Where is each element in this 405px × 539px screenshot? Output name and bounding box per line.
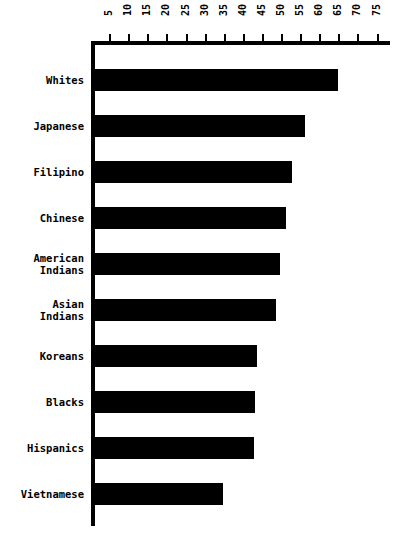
x-axis-tick-label: 35 bbox=[219, 4, 229, 16]
x-axis-tick-label: 25 bbox=[181, 4, 191, 16]
x-axis-tick-label: 40 bbox=[238, 4, 248, 16]
bar bbox=[95, 69, 338, 91]
category-label: Hispanics bbox=[0, 442, 84, 454]
category-label: Filipino bbox=[0, 166, 84, 178]
bar bbox=[95, 483, 223, 505]
x-axis-tick-label: 55 bbox=[295, 4, 305, 16]
category-label: Vietnamese bbox=[0, 488, 84, 500]
x-axis-tick bbox=[262, 34, 264, 42]
x-axis-tick bbox=[147, 34, 149, 42]
category-label: Asian Indians bbox=[0, 298, 84, 322]
bar bbox=[95, 345, 257, 367]
bar bbox=[95, 437, 254, 459]
x-axis-tick-label: 45 bbox=[257, 4, 267, 16]
x-axis-tick-label: 75 bbox=[372, 4, 382, 16]
x-axis-tick bbox=[109, 34, 111, 42]
x-axis-tick bbox=[243, 34, 245, 42]
x-axis-tick bbox=[166, 34, 168, 42]
x-axis-tick-label: 10 bbox=[123, 4, 133, 16]
x-axis-tick-label: 15 bbox=[142, 4, 152, 16]
category-label: Koreans bbox=[0, 350, 84, 362]
x-axis-tick-label: 30 bbox=[200, 4, 210, 16]
x-axis-tick-label: 65 bbox=[333, 4, 343, 16]
bar bbox=[95, 161, 292, 183]
category-label: Whites bbox=[0, 74, 84, 86]
bar bbox=[95, 253, 280, 275]
x-axis-tick bbox=[186, 34, 188, 42]
bar bbox=[95, 115, 305, 137]
x-axis-tick-label: 50 bbox=[276, 4, 286, 16]
x-axis-tick bbox=[338, 34, 340, 42]
x-axis-tick-label: 70 bbox=[352, 4, 362, 16]
x-axis-tick bbox=[205, 34, 207, 42]
x-axis-tick bbox=[319, 34, 321, 42]
category-label: Japanese bbox=[0, 120, 84, 132]
x-axis-tick-label: 60 bbox=[314, 4, 324, 16]
bar bbox=[95, 299, 276, 321]
bar bbox=[95, 391, 255, 413]
category-label: Chinese bbox=[0, 212, 84, 224]
x-axis-tick bbox=[128, 34, 130, 42]
x-axis-tick bbox=[377, 34, 379, 42]
x-axis-tick bbox=[300, 34, 302, 42]
x-axis-line bbox=[91, 41, 390, 45]
x-axis-tick bbox=[357, 34, 359, 42]
x-axis-tick-label: 5 bbox=[104, 10, 114, 16]
bar-chart: 51015202530354045505560657075 WhitesJapa… bbox=[0, 0, 405, 539]
bar bbox=[95, 207, 286, 229]
category-label: Blacks bbox=[0, 396, 84, 408]
category-label: American Indians bbox=[0, 252, 84, 276]
x-axis-tick-label: 20 bbox=[161, 4, 171, 16]
x-axis-tick bbox=[224, 34, 226, 42]
x-axis-tick bbox=[281, 34, 283, 42]
